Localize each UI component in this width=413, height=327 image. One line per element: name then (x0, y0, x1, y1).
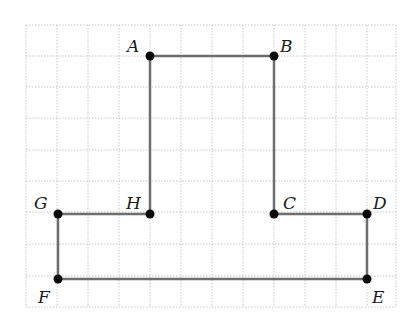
diagram-canvas: ABCDEFGH (0, 0, 413, 327)
vertex-a-label: A (125, 36, 139, 56)
vertex-b-label: B (279, 36, 293, 56)
vertex-c-dot (270, 210, 279, 219)
vertex-e-dot (363, 275, 372, 284)
vertex-f-dot (54, 275, 63, 284)
vertex-labels: ABCDEFGH (34, 36, 387, 307)
vertex-c-label: C (283, 193, 296, 213)
vertex-a-dot (146, 52, 155, 61)
vertex-d-dot (363, 210, 372, 219)
vertex-d-label: D (372, 193, 387, 213)
vertex-h-dot (146, 210, 155, 219)
vertex-h-label: H (125, 193, 142, 213)
vertex-e-label: E (371, 287, 385, 307)
vertex-g-label: G (34, 193, 48, 213)
vertex-b-dot (270, 52, 279, 61)
vertex-g-dot (54, 210, 63, 219)
vertex-f-label: F (37, 287, 51, 307)
grid (26, 25, 396, 307)
